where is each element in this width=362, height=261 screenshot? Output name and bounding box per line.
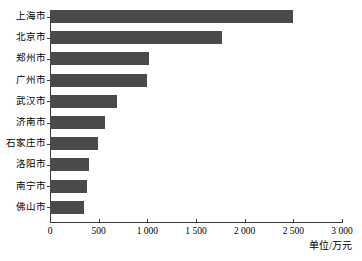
y-axis-tick (47, 207, 50, 208)
bar-row: 济南市 (50, 116, 342, 129)
bar (50, 31, 222, 44)
x-axis-tick (147, 219, 148, 223)
bar (50, 95, 117, 108)
bar-row: 佛山市 (50, 201, 342, 214)
category-label: 广州市 (0, 74, 46, 87)
bar (50, 10, 293, 23)
y-axis-tick (47, 123, 50, 124)
y-axis-tick (47, 101, 50, 102)
x-axis-tick (99, 219, 100, 223)
bar-row: 北京市 (50, 31, 342, 44)
bar (50, 137, 98, 150)
x-axis-tick-label: 1 500 (185, 226, 206, 237)
category-label: 上海市 (0, 10, 46, 23)
y-axis-tick (47, 17, 50, 18)
category-label: 石家庄市 (0, 137, 46, 150)
bar-row: 石家庄市 (50, 137, 342, 150)
bar-row: 郑州市 (50, 52, 342, 65)
bar-row: 上海市 (50, 10, 342, 23)
bar-row: 南宁市 (50, 180, 342, 193)
category-label: 南宁市 (0, 180, 46, 193)
x-axis-tick-label: 3 000 (331, 226, 352, 237)
category-label: 佛山市 (0, 201, 46, 214)
bar (50, 158, 89, 171)
bar-row: 洛阳市 (50, 158, 342, 171)
category-label: 武汉市 (0, 95, 46, 108)
bar-row: 武汉市 (50, 95, 342, 108)
y-axis-tick (47, 38, 50, 39)
plot-area: 上海市北京市郑州市广州市武汉市济南市石家庄市洛阳市南宁市佛山市 (50, 10, 342, 222)
y-axis-tick (47, 144, 50, 145)
bar-chart: 上海市北京市郑州市广州市武汉市济南市石家庄市洛阳市南宁市佛山市 05001 00… (0, 0, 362, 261)
unit-caption: 单位/万元 (309, 240, 352, 252)
bar-row: 广州市 (50, 74, 342, 87)
x-axis-tick-label: 2 500 (283, 226, 304, 237)
bar (50, 116, 105, 129)
x-axis-tick (293, 219, 294, 223)
x-axis-tick-label: 0 (48, 226, 53, 237)
category-label: 北京市 (0, 31, 46, 44)
x-axis-tick-label: 500 (92, 226, 106, 237)
bar (50, 201, 84, 214)
category-label: 济南市 (0, 116, 46, 129)
y-axis-tick (47, 165, 50, 166)
x-axis-tick (196, 219, 197, 223)
y-axis-tick (47, 59, 50, 60)
x-axis-tick (342, 219, 343, 223)
y-axis-tick (47, 186, 50, 187)
x-axis-tick-label: 2 000 (234, 226, 255, 237)
category-label: 郑州市 (0, 52, 46, 65)
bar (50, 74, 147, 87)
bar (50, 180, 87, 193)
y-axis-tick (47, 80, 50, 81)
x-axis-tick (245, 219, 246, 223)
category-label: 洛阳市 (0, 158, 46, 171)
x-axis-tick-label: 1 000 (137, 226, 158, 237)
x-axis-tick (50, 219, 51, 223)
bar (50, 52, 149, 65)
